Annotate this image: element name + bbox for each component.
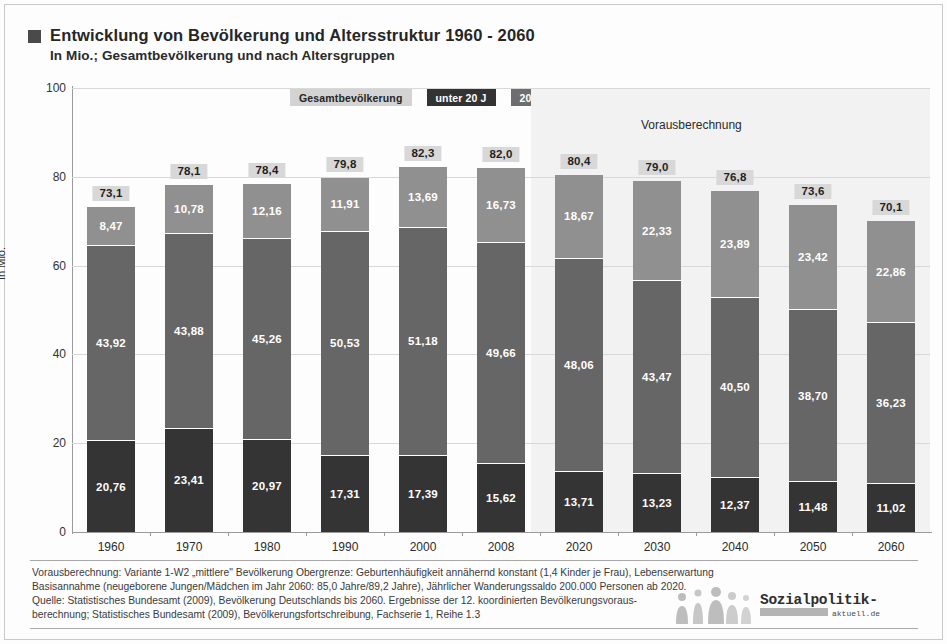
bar-segment-unter-20[interactable]: 13,23 — [633, 473, 681, 532]
stacked-bar[interactable]: 22,3343,4713,23 — [633, 181, 681, 532]
bar-segment-unter-20[interactable]: 15,62 — [477, 463, 525, 532]
bar-group[interactable]: 22,3343,4713,2379,0 — [633, 88, 681, 532]
stacked-bar[interactable]: 12,1645,2620,97 — [243, 184, 291, 532]
title-block: Entwicklung von Bevölkerung und Altersst… — [28, 26, 728, 63]
bar-segment-65-und-aelter[interactable]: 23,42 — [789, 205, 837, 309]
stacked-bar[interactable]: 16,7349,6615,62 — [477, 168, 525, 532]
bar-group[interactable]: 23,8940,5012,3776,8 — [711, 88, 759, 532]
y-axis-tick-label: 20 — [32, 436, 66, 450]
page-title: Entwicklung von Bevölkerung und Altersst… — [50, 26, 535, 45]
bar-segment-20-bis-65[interactable]: 50,53 — [321, 231, 369, 455]
bar-group[interactable]: 10,7843,8823,4178,1 — [165, 88, 213, 532]
bar-group[interactable]: 11,9150,5317,3179,8 — [321, 88, 369, 532]
y-axis-tick-label: 0 — [32, 525, 66, 539]
bar-segment-unter-20[interactable]: 17,39 — [399, 455, 447, 532]
footer-line: berechnung; Statistisches Bundesamt (200… — [32, 608, 672, 622]
x-axis-line — [72, 532, 932, 533]
bar-segment-unter-20[interactable]: 13,71 — [555, 471, 603, 532]
stacked-bar[interactable]: 11,9150,5317,31 — [321, 178, 369, 532]
x-axis-tick-mark — [540, 532, 541, 536]
bar-group[interactable]: 23,4238,7011,4873,6 — [789, 88, 837, 532]
x-axis-tick-label: 2008 — [466, 540, 536, 554]
x-axis-tick-label: 2000 — [388, 540, 458, 554]
bar-segment-20-bis-65[interactable]: 49,66 — [477, 242, 525, 462]
x-axis-tick-mark — [384, 532, 385, 536]
logo[interactable]: Sozialpolitik- aktuell.de — [672, 586, 922, 626]
bar-group[interactable]: 22,8636,2311,0270,1 — [867, 88, 915, 532]
total-value-label: 82,3 — [404, 146, 441, 161]
stacked-bar[interactable]: 13,6951,1817,39 — [399, 167, 447, 532]
bar-segment-65-und-aelter[interactable]: 23,89 — [711, 191, 759, 297]
x-axis-tick-label: 1990 — [310, 540, 380, 554]
bar-segment-20-bis-65[interactable]: 51,18 — [399, 227, 447, 454]
total-value-label: 79,8 — [326, 157, 363, 172]
total-value-label: 73,6 — [794, 184, 831, 199]
x-axis-tick-label: 1960 — [76, 540, 146, 554]
bar-group[interactable]: 18,6748,0613,7180,4 — [555, 88, 603, 532]
bar-segment-20-bis-65[interactable]: 43,92 — [87, 245, 135, 440]
stacked-bar[interactable]: 23,4238,7011,48 — [789, 205, 837, 532]
stacked-bar[interactable]: 22,8636,2311,02 — [867, 221, 915, 532]
logo-underline — [760, 608, 828, 616]
bar-segment-65-und-aelter[interactable]: 8,47 — [87, 207, 135, 245]
total-value-label: 82,0 — [482, 147, 519, 162]
x-axis-tick-mark — [618, 532, 619, 536]
logo-name: Sozialpolitik- — [760, 592, 878, 608]
footer-line: Quelle: Statistisches Bundesamt (2009), … — [32, 594, 672, 608]
bar-segment-65-und-aelter[interactable]: 22,33 — [633, 181, 681, 280]
footer-line: Basisannahme (neugeborene Jungen/Mädchen… — [32, 580, 672, 594]
x-axis-tick-label: 2050 — [778, 540, 848, 554]
bar-segment-65-und-aelter[interactable]: 13,69 — [399, 167, 447, 228]
y-axis-tick-label: 80 — [32, 170, 66, 184]
x-axis-tick-label: 1970 — [154, 540, 224, 554]
bar-group[interactable]: 13,6951,1817,3982,3 — [399, 88, 447, 532]
bar-segment-unter-20[interactable]: 23,41 — [165, 428, 213, 532]
x-axis-tick-mark — [306, 532, 307, 536]
total-value-label: 73,1 — [92, 186, 129, 201]
square-bullet-icon — [28, 30, 41, 43]
logo-domain: aktuell.de — [832, 609, 880, 618]
x-axis-tick-mark — [228, 532, 229, 536]
bar-segment-unter-20[interactable]: 11,48 — [789, 481, 837, 532]
bar-segment-20-bis-65[interactable]: 40,50 — [711, 297, 759, 477]
x-axis-tick-label: 2030 — [622, 540, 692, 554]
footer-line: Vorausberechnung: Variante 1-W2 „mittler… — [32, 566, 672, 580]
bar-segment-20-bis-65[interactable]: 36,23 — [867, 322, 915, 483]
bar-segment-65-und-aelter[interactable]: 18,67 — [555, 175, 603, 258]
bar-segment-20-bis-65[interactable]: 43,47 — [633, 280, 681, 473]
x-axis-tick-label: 2060 — [856, 540, 926, 554]
x-axis-tick-label: 1980 — [232, 540, 302, 554]
bar-segment-20-bis-65[interactable]: 43,88 — [165, 233, 213, 428]
bar-group[interactable]: 12,1645,2620,9778,4 — [243, 88, 291, 532]
bar-segment-65-und-aelter[interactable]: 12,16 — [243, 184, 291, 238]
stacked-bar[interactable]: 10,7843,8823,41 — [165, 185, 213, 532]
total-value-label: 78,4 — [248, 163, 285, 178]
bar-segment-20-bis-65[interactable]: 48,06 — [555, 258, 603, 471]
bar-segment-20-bis-65[interactable]: 45,26 — [243, 238, 291, 439]
y-axis-tick-label: 40 — [32, 347, 66, 361]
stacked-bar[interactable]: 8,4743,9220,76 — [87, 207, 135, 532]
x-axis-tick-label: 2040 — [700, 540, 770, 554]
bar-segment-unter-20[interactable]: 20,76 — [87, 440, 135, 532]
total-value-label: 76,8 — [716, 170, 753, 185]
bar-segment-65-und-aelter[interactable]: 10,78 — [165, 185, 213, 233]
bar-segment-unter-20[interactable]: 11,02 — [867, 483, 915, 532]
bar-segment-20-bis-65[interactable]: 38,70 — [789, 309, 837, 481]
bar-segment-unter-20[interactable]: 12,37 — [711, 477, 759, 532]
bar-segment-65-und-aelter[interactable]: 11,91 — [321, 178, 369, 231]
y-axis-tick-label: 60 — [32, 259, 66, 273]
stacked-bar[interactable]: 18,6748,0613,71 — [555, 175, 603, 532]
bar-segment-65-und-aelter[interactable]: 22,86 — [867, 221, 915, 322]
bar-segment-unter-20[interactable]: 17,31 — [321, 455, 369, 532]
total-value-label: 78,1 — [170, 164, 207, 179]
x-axis-tick-mark — [150, 532, 151, 536]
bar-group[interactable]: 8,4743,9220,7673,1 — [87, 88, 135, 532]
y-axis-label: In Mio. — [0, 247, 7, 280]
bar-segment-65-und-aelter[interactable]: 16,73 — [477, 168, 525, 242]
bar-group[interactable]: 16,7349,6615,6282,0 — [477, 88, 525, 532]
stacked-bar[interactable]: 23,8940,5012,37 — [711, 191, 759, 532]
x-axis-tick-mark — [696, 532, 697, 536]
bar-segment-unter-20[interactable]: 20,97 — [243, 439, 291, 532]
x-axis-tick-mark — [462, 532, 463, 536]
footer-notes: Vorausberechnung: Variante 1-W2 „mittler… — [32, 566, 672, 622]
